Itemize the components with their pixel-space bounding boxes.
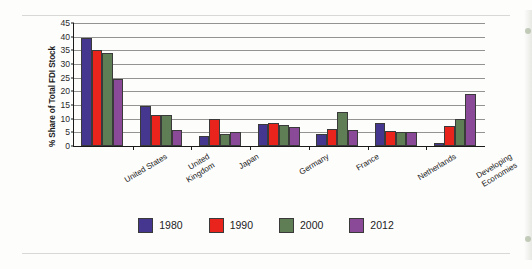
bar (289, 127, 300, 146)
bar (385, 131, 396, 146)
x-axis-tick (191, 146, 192, 150)
bar-group (81, 23, 123, 146)
y-axis-tick-label: 10 (60, 114, 70, 123)
x-axis-tick (309, 146, 310, 150)
bar (220, 134, 231, 146)
bar (199, 136, 210, 146)
legend-label: 2012 (370, 219, 393, 232)
bar (172, 130, 183, 146)
bar (92, 50, 103, 146)
bar-group (316, 23, 358, 146)
page-canvas: % Share of Total FDI Stock 0510152025303… (0, 0, 532, 269)
bar (151, 115, 162, 146)
y-axis-tick-label: 0 (65, 142, 70, 151)
bar (316, 134, 327, 146)
bar-group (258, 23, 300, 146)
bar-group (375, 23, 417, 146)
y-axis-tick-label: 20 (60, 87, 70, 96)
bar-group (140, 23, 182, 146)
x-axis-category-label: Netherlands (416, 152, 458, 182)
y-axis-tick-label: 40 (60, 32, 70, 41)
bar-series-container (74, 23, 485, 146)
y-axis-tick-label: 15 (60, 101, 70, 110)
bar (465, 94, 476, 146)
bar (268, 123, 279, 146)
y-axis-tick-label: 5 (65, 128, 70, 137)
x-axis-category-label: Germany (297, 152, 330, 177)
legend-swatch-icon (349, 218, 364, 233)
bar (337, 112, 348, 146)
legend-label: 1990 (230, 219, 253, 232)
x-axis-category-label: France (355, 152, 381, 173)
x-axis-category-label: United States (123, 152, 169, 185)
legend-label: 2000 (300, 219, 323, 232)
bar-group (199, 23, 241, 146)
bar (81, 38, 92, 146)
bar (161, 115, 172, 146)
bar (327, 129, 338, 146)
bar (209, 119, 220, 146)
bar (140, 106, 151, 146)
bar (348, 130, 359, 146)
y-axis-tick-label: 30 (60, 60, 70, 69)
bar-group (434, 23, 476, 146)
y-axis-tick-label: 25 (60, 73, 70, 82)
x-axis-category-label: Developing Economies (474, 152, 518, 189)
bar (406, 132, 417, 146)
legend-swatch-icon (209, 218, 224, 233)
x-axis-category-label: United Kingdom (180, 152, 217, 185)
bar (434, 143, 445, 146)
y-axis-tick-label: 35 (60, 46, 70, 55)
bar (102, 53, 113, 146)
page-rule-bottom (22, 253, 510, 254)
scan-edge-mark-top (525, 28, 531, 34)
bar (258, 124, 269, 146)
x-axis-tick (133, 146, 134, 150)
page-rule-top (22, 15, 510, 16)
bar (113, 79, 124, 146)
plot-area: 051015202530354045 United StatesUnited K… (73, 23, 485, 147)
x-axis-tick (368, 146, 369, 150)
chart-legend: 1980199020002012 (0, 218, 532, 233)
x-axis-category-label: Japan (237, 152, 261, 171)
bar (444, 126, 455, 147)
bar (455, 119, 466, 146)
y-axis-title: % Share of Total FDI Stock (46, 23, 60, 147)
legend-item: 1980 (138, 218, 182, 233)
bar-chart: % Share of Total FDI Stock 0510152025303… (30, 19, 500, 209)
x-axis-tick (250, 146, 251, 150)
legend-item: 2012 (349, 218, 393, 233)
legend-swatch-icon (279, 218, 294, 233)
legend-item: 1990 (209, 218, 253, 233)
legend-swatch-icon (138, 218, 153, 233)
bar (230, 132, 241, 146)
x-axis-tick (426, 146, 427, 150)
scan-edge-mark-bottom (525, 236, 531, 242)
bar (375, 123, 386, 146)
y-axis-tick-label: 45 (60, 19, 70, 28)
bar (396, 132, 407, 146)
bar (279, 125, 290, 146)
legend-label: 1980 (159, 219, 182, 232)
legend-item: 2000 (279, 218, 323, 233)
